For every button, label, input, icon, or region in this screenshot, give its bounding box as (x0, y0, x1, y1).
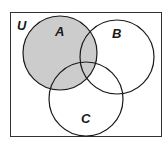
set-a-label: A (54, 24, 64, 39)
venn-diagram: U A B C (0, 0, 168, 144)
set-b-label: B (112, 26, 121, 41)
set-c-label: C (81, 111, 91, 126)
universe-label: U (17, 18, 27, 33)
